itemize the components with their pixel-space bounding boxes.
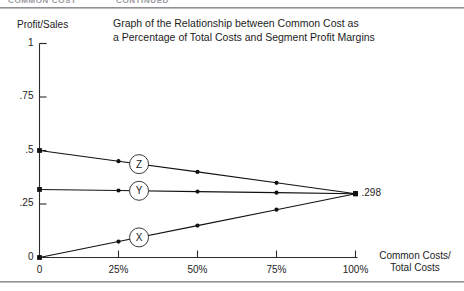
y-tick-label: 0 [4,251,34,262]
series-point-x [195,224,199,228]
y-tick-label: .75 [4,90,34,101]
y-tick-label: 1 [4,37,34,48]
series-endpoint-x [37,255,42,260]
series-point-z [116,159,120,163]
x-tick-label: 0 [18,264,62,275]
y-tick-label: .5 [4,144,34,155]
series-badge-label-x: X [136,232,143,243]
series-badge-label-z: Z [136,159,142,170]
x-tick-label: 75% [255,264,299,275]
series-endpoint-z [37,148,42,153]
chart-page: COMMON COST CONTINUED Graph of the Relat… [0,0,464,291]
chart-svg: ZYX [0,0,464,291]
x-tick-label: 50% [176,264,220,275]
series-endpoint-y [37,187,42,192]
series-point-y [274,191,278,195]
x-tick-label: 25% [97,264,141,275]
x-tick-label: 100% [334,264,378,275]
series-badge-label-y: Y [136,185,143,196]
series-point-x [274,208,278,212]
footer-rule [0,281,464,283]
series-point-x [116,239,120,243]
series-point-z [195,170,199,174]
series-point-z [274,181,278,185]
convergence-value-label: .298 [362,187,381,198]
series-point-y [195,189,199,193]
series-endpoint-x [353,191,358,196]
series-point-y [116,188,120,192]
y-tick-label: .25 [4,197,34,208]
plot-area: ZYX1.75.5.250025%50%75%100%.298 [0,0,464,291]
